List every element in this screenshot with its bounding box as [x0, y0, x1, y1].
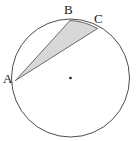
point-label-b: B: [64, 3, 73, 16]
figure-canvas: [0, 0, 136, 141]
center-dot: [69, 77, 72, 80]
point-label-c: C: [94, 12, 103, 25]
circle-geometry-figure: A B C: [0, 0, 136, 141]
shaded-region-abc: [16, 21, 98, 81]
point-label-a: A: [3, 72, 12, 85]
